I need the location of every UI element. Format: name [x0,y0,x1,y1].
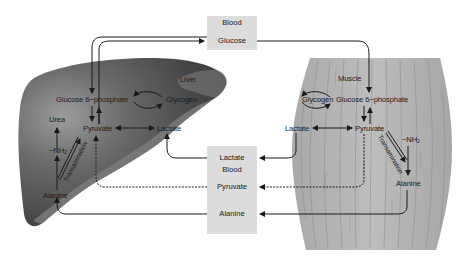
liver-lactate-label: Lactate [157,125,181,133]
cori-alanine-cycle-diagram: Blood Glucose Lactate Blood Pyruvate Ala… [0,0,459,269]
muscle-glucose6p-label: Glucose 6−phosphate [336,96,408,104]
blood-pyruvate-label: Pyruvate [207,183,257,191]
liver-urea-label: Urea [49,116,65,124]
blood-lactate-label: Lactate [207,154,257,162]
nh2-text: −NH [49,146,64,155]
muscle-pyruvate-label: Pyruvate [355,125,384,133]
liver-alanine-label: Alanine [43,192,68,200]
blood-glucose-label: Glucose [207,37,257,45]
blood-bottom-label: Blood [207,166,257,174]
muscle-tissue [292,58,452,250]
liver-title: Liver [180,76,196,84]
muscle-alanine-label: Alanine [396,180,421,188]
nh2-text: −NH [402,135,417,144]
liver-pyruvate-label: Pyruvate [83,125,112,133]
nh2-subscript: 2 [64,149,67,155]
muscle-lactate-label: Lactate [285,125,309,133]
liver-nh2-label: −NH2 [49,147,67,155]
blood-top-label: Blood [207,19,257,27]
liver-glycogen-label: Glycogen [166,96,197,104]
blood-alanine-label: Alanine [207,210,257,218]
liver-glucose6p-label: Glucose 6−phosphate [56,96,128,104]
muscle-title: Muscle [338,75,361,83]
nh2-subscript: 2 [417,138,420,144]
muscle-nh2-label: −NH2 [402,136,420,144]
muscle-glycogen-label: Glycogen [302,96,333,104]
